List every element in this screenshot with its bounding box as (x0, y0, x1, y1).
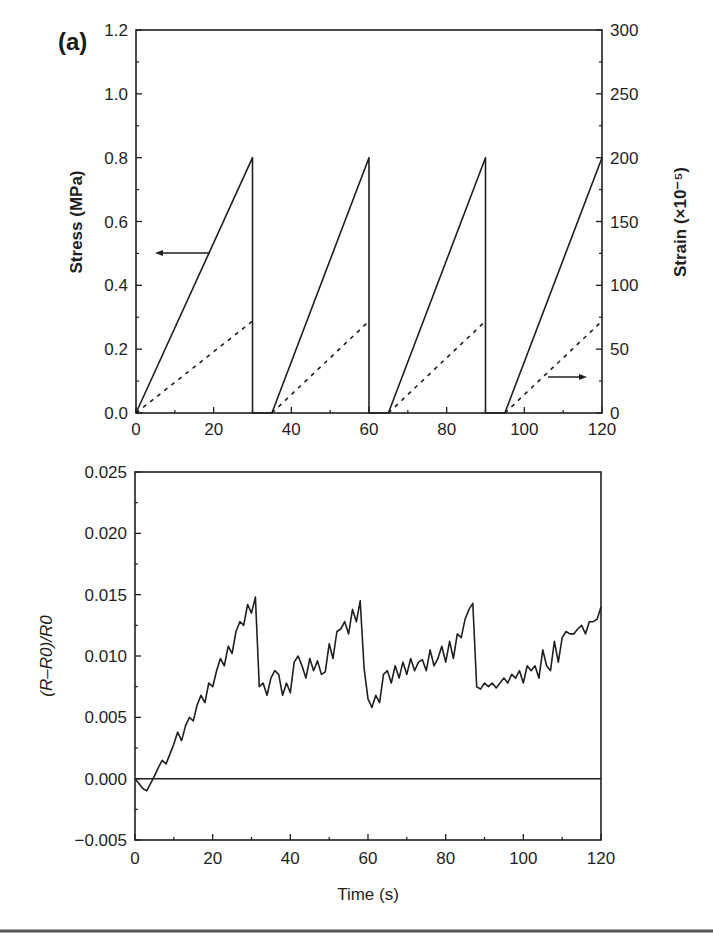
resistance-chart: 020406080100120 −0.0050.0000.0050.0100.0… (37, 463, 615, 904)
x-tick-label: 100 (510, 420, 538, 439)
y-tick-label: 0.2 (104, 340, 128, 359)
bottom-x-axis-ticks: 020406080100120 (130, 834, 615, 868)
resistance-axis-label: (R–R0)/R0 (37, 615, 56, 697)
y-tick-label: 0.6 (104, 213, 128, 232)
x-tick-label: 60 (360, 420, 379, 439)
bottom-y-axis-ticks: −0.0050.0000.0050.0100.0150.0200.025 (75, 463, 141, 850)
x-tick-label: 80 (436, 849, 455, 868)
stress-strain-chart: 020406080100120 0.00.20.40.60.81.01.2 05… (67, 21, 690, 439)
y-tick-label: 0.020 (84, 524, 127, 543)
figure: (a) 020406080100120 0.00.20.40.60.81.01.… (0, 0, 713, 942)
x-tick-label: 100 (509, 849, 537, 868)
y-tick-label: 0.005 (84, 708, 127, 727)
x-tick-label: 0 (130, 849, 139, 868)
y2-tick-label: 300 (610, 21, 638, 40)
time-axis-label: Time (s) (337, 885, 399, 904)
y-tick-label: 0.015 (84, 586, 127, 605)
bottom-series (135, 597, 601, 791)
top-x-axis-ticks: 020406080100120 (131, 407, 616, 439)
y-tick-label: 0.000 (84, 770, 127, 789)
y2-tick-label: 100 (610, 276, 638, 295)
y-tick-label: 0.0 (104, 404, 128, 423)
y-tick-label: 0.025 (84, 463, 127, 482)
panel-label: (a) (58, 28, 87, 55)
bottom-plot-frame (135, 472, 601, 840)
y2-tick-label: 250 (610, 85, 638, 104)
y2-tick-label: 0 (610, 404, 619, 423)
strain-axis-label: Strain (×10⁻⁵) (671, 167, 690, 277)
y-tick-label: 1.0 (104, 85, 128, 104)
left-arrow-icon (155, 250, 210, 256)
x-tick-label: 20 (204, 420, 223, 439)
right-arrow-icon (548, 374, 587, 380)
y-tick-label: 0.8 (104, 149, 128, 168)
x-tick-label: 20 (203, 849, 222, 868)
x-tick-label: 80 (437, 420, 456, 439)
series-line (136, 158, 602, 413)
y2-tick-label: 200 (610, 149, 638, 168)
y-tick-label: 0.010 (84, 647, 127, 666)
y2-tick-label: 50 (610, 340, 629, 359)
y-tick-label: 0.4 (104, 276, 128, 295)
y2-tick-label: 150 (610, 213, 638, 232)
x-tick-label: 40 (282, 420, 301, 439)
x-tick-label: 0 (131, 420, 140, 439)
y-tick-label: −0.005 (75, 831, 127, 850)
x-tick-label: 40 (281, 849, 300, 868)
top-series (136, 158, 602, 413)
series-line (135, 597, 601, 791)
y-tick-label: 1.2 (104, 21, 128, 40)
stress-axis-label: Stress (MPa) (67, 171, 86, 274)
x-tick-label: 60 (359, 849, 378, 868)
x-tick-label: 120 (587, 849, 615, 868)
